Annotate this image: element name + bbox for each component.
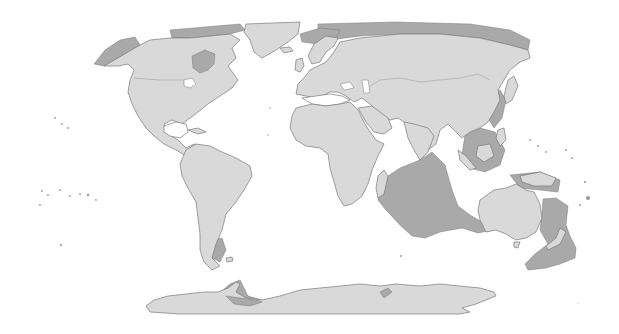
islet — [584, 181, 586, 183]
british-isles — [295, 58, 304, 72]
islet — [579, 204, 581, 206]
islet — [267, 134, 269, 136]
islet — [60, 244, 62, 246]
islet — [571, 157, 573, 159]
islet — [79, 193, 81, 195]
falkland-islands — [226, 257, 233, 262]
islet — [529, 139, 531, 141]
islet — [537, 145, 539, 147]
islet — [54, 117, 56, 119]
japan — [504, 76, 518, 104]
cuba — [188, 128, 206, 134]
greenland — [244, 22, 300, 58]
iceland — [280, 47, 293, 53]
islet — [87, 194, 89, 196]
world-map — [0, 0, 619, 334]
islet — [565, 149, 567, 151]
islet — [400, 255, 402, 257]
islet — [67, 127, 69, 129]
islet — [47, 194, 49, 196]
islet — [69, 195, 71, 197]
islet — [41, 190, 43, 192]
islet — [39, 204, 41, 206]
islet — [545, 151, 547, 153]
islet — [61, 123, 63, 125]
australia — [478, 184, 542, 240]
land-layer — [104, 22, 566, 314]
islet — [586, 196, 590, 200]
islet — [577, 302, 578, 303]
islet — [269, 107, 271, 109]
islet — [95, 199, 97, 201]
islet — [59, 189, 61, 191]
antarctica — [146, 282, 496, 314]
tasmania — [514, 242, 520, 248]
